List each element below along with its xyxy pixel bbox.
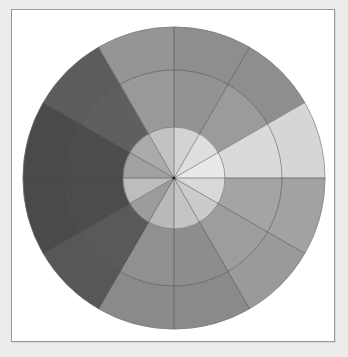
center-point [173, 177, 176, 180]
segmented-color-wheel [0, 0, 348, 357]
